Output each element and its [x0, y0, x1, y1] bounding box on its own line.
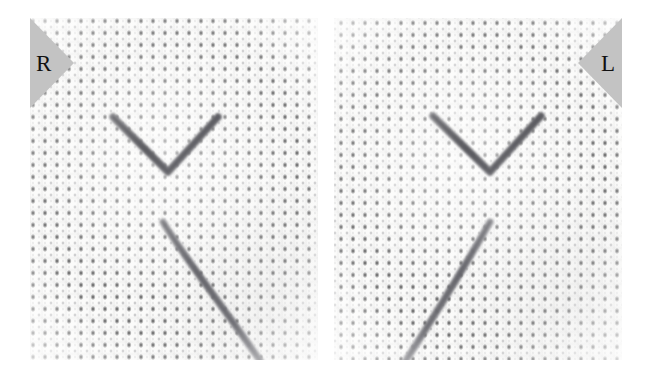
panel-label-l-text: L	[601, 52, 615, 75]
stereo-suture-figure: R	[0, 0, 650, 376]
panel-label-r-text: R	[36, 52, 51, 75]
panel-label-r: R	[30, 18, 74, 108]
panel-right-eye[interactable]: R	[30, 18, 318, 360]
panel-left-eye[interactable]: L	[334, 18, 622, 360]
panel-label-l: L	[578, 18, 622, 108]
